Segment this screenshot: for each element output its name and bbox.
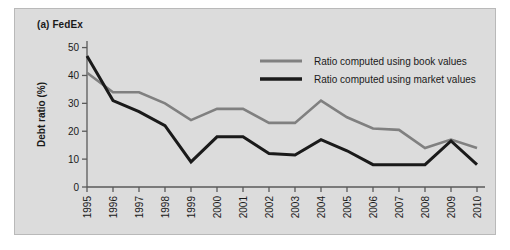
x-axis-tick-label: 1999 xyxy=(186,196,197,219)
x-axis-tick-label: 2005 xyxy=(342,196,353,219)
legend-label-market-values: Ratio computed using market values xyxy=(314,74,476,85)
figure-panel: (a) FedEx 01020304050Debt ratio (%)19951… xyxy=(14,8,496,235)
y-axis-tick-label: 10 xyxy=(68,154,80,165)
x-axis-tick-label: 2001 xyxy=(238,196,249,219)
x-axis-tick-label: 2007 xyxy=(394,196,405,219)
y-axis-title: Debt ratio (%) xyxy=(36,82,47,147)
x-axis-tick-label: 2003 xyxy=(290,196,301,219)
x-axis-tick-label: 2006 xyxy=(368,196,379,219)
y-axis-tick-label: 0 xyxy=(73,182,79,193)
line-chart: 01020304050Debt ratio (%)199519961997199… xyxy=(15,9,495,234)
y-axis-tick-label: 30 xyxy=(68,98,80,109)
x-axis-tick-label: 2010 xyxy=(472,196,483,219)
series-line-market-values xyxy=(87,56,477,165)
x-axis-tick-label: 2000 xyxy=(212,196,223,219)
x-axis-tick-label: 1995 xyxy=(82,196,93,219)
x-axis-tick-label: 2009 xyxy=(446,196,457,219)
y-axis-tick-label: 20 xyxy=(68,126,80,137)
x-axis-tick-label: 2002 xyxy=(264,196,275,219)
x-axis-tick-label: 1998 xyxy=(160,196,171,219)
y-axis-tick-label: 40 xyxy=(68,70,80,81)
x-axis-tick-label: 2004 xyxy=(316,196,327,219)
legend-label-book-values: Ratio computed using book values xyxy=(314,56,467,67)
y-axis-tick-label: 50 xyxy=(68,42,80,53)
x-axis-tick-label: 2008 xyxy=(420,196,431,219)
x-axis-tick-label: 1997 xyxy=(134,196,145,219)
x-axis-tick-label: 1996 xyxy=(108,196,119,219)
